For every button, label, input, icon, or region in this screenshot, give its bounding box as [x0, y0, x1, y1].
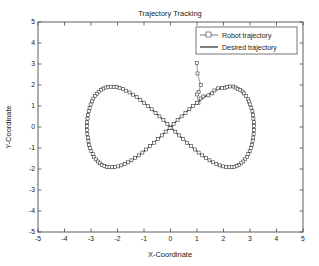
x-tick-label: 5: [301, 235, 305, 242]
robot-trajectory-marker: [211, 92, 214, 95]
robot-trajectory-marker: [120, 164, 123, 167]
robot-trajectory-marker: [118, 87, 121, 90]
y-tick-label: -5: [29, 228, 35, 235]
y-tick-label: 3: [31, 60, 35, 67]
y-tick-label: -2: [29, 165, 35, 172]
chart-legend: Robot trajectory Desired trajectory: [196, 27, 297, 54]
legend-label-robot: Robot trajectory: [222, 32, 272, 40]
robot-trajectory-marker: [150, 108, 153, 111]
robot-trajectory-marker: [137, 154, 140, 157]
robot-trajectory-marker: [149, 145, 152, 148]
robot-trajectory-marker: [117, 165, 120, 168]
robot-trajectory-marker: [86, 117, 89, 120]
robot-trajectory-marker: [182, 138, 185, 141]
trajectory-chart: Trajectory Tracking -5-4-3-2-1012345 -5-…: [0, 0, 319, 266]
robot-trajectory-marker: [207, 94, 210, 97]
robot-trajectory-marker: [145, 148, 148, 151]
robot-trajectory-marker: [184, 111, 187, 114]
robot-trajectory-marker: [248, 100, 251, 103]
y-tick-label: -3: [29, 186, 35, 193]
robot-trajectory-marker: [186, 141, 189, 144]
robot-trajectory-marker: [251, 140, 254, 143]
robot-trajectory-marker: [224, 166, 227, 169]
robot-trajectory-marker: [197, 151, 200, 154]
robot-trajectory-marker: [88, 106, 91, 109]
robot-trajectory-marker: [86, 129, 89, 132]
robot-trajectory-marker: [132, 93, 135, 96]
robot-trajectory-marker: [162, 119, 165, 122]
robot-trajectory-marker: [227, 166, 230, 169]
x-tick-label: -4: [61, 235, 67, 242]
robot-trajectory-marker: [221, 165, 224, 168]
x-tick-label: 1: [195, 235, 199, 242]
robot-trajectory-marker: [218, 164, 221, 167]
robot-trajectory-marker: [253, 125, 256, 128]
robot-trajectory-marker: [89, 147, 92, 150]
robot-trajectory-marker: [199, 84, 202, 87]
robot-trajectory-marker: [208, 159, 211, 162]
robot-trajectory-marker: [141, 151, 144, 154]
y-tick-label: -1: [29, 144, 35, 151]
robot-trajectory-marker: [196, 72, 199, 75]
y-tick-label: 1: [31, 102, 35, 109]
robot-trajectory-marker: [178, 134, 181, 137]
robot-trajectory-marker: [146, 104, 149, 107]
robot-trajectory-marker: [134, 157, 137, 160]
robot-trajectory-marker: [127, 161, 130, 164]
robot-trajectory-marker: [250, 106, 253, 109]
robot-trajectory-marker: [143, 101, 146, 104]
robot-trajectory-marker: [86, 125, 89, 128]
robot-trajectory-marker: [164, 130, 167, 133]
y-tick-label: 2: [31, 81, 35, 88]
robot-trajectory-marker: [154, 111, 157, 114]
x-tick-label: 0: [169, 235, 173, 242]
robot-trajectory-marker: [252, 132, 255, 135]
robot-trajectory-marker: [135, 96, 138, 99]
robot-trajectory-marker: [252, 136, 255, 139]
robot-trajectory-marker: [211, 161, 214, 164]
robot-trajectory-marker: [204, 157, 207, 160]
x-tick-label: 2: [222, 235, 226, 242]
robot-trajectory-marker: [226, 86, 229, 89]
robot-trajectory-marker: [115, 86, 118, 89]
x-axis-label: X-Coordinate: [148, 250, 192, 259]
robot-trajectory-marker: [252, 113, 255, 116]
robot-trajectory-marker: [86, 136, 89, 139]
robot-trajectory-marker: [248, 150, 251, 153]
robot-trajectory-marker: [201, 154, 204, 157]
robot-trajectory-marker: [87, 113, 90, 116]
robot-trajectory-marker: [190, 145, 193, 148]
robot-trajectory-marker: [220, 86, 223, 89]
robot-trajectory-marker: [123, 163, 126, 166]
robot-trajectory-marker: [152, 141, 155, 144]
robot-trajectory-marker: [176, 119, 179, 122]
robot-trajectory-marker: [249, 147, 252, 150]
robot-trajectory-marker: [196, 101, 199, 104]
robot-trajectory-marker: [87, 140, 90, 143]
robot-trajectory-marker: [130, 159, 133, 162]
y-tick-label: 5: [31, 18, 35, 25]
x-tick-label: -5: [35, 235, 41, 242]
y-axis-label: Y-Coordinate: [4, 105, 13, 149]
robot-trajectory-marker: [90, 150, 93, 153]
robot-trajectory-marker: [92, 97, 95, 100]
x-tick-label: -3: [88, 235, 94, 242]
robot-trajectory-marker: [196, 61, 199, 64]
robot-trajectory-marker: [125, 89, 128, 92]
y-tick-label: -4: [29, 207, 35, 214]
robot-trajectory-marker: [252, 117, 255, 120]
robot-trajectory-marker: [188, 108, 191, 111]
robot-trajectory-marker: [250, 143, 253, 146]
robot-trajectory-marker: [249, 103, 252, 106]
robot-trajectory-marker: [192, 104, 195, 107]
robot-trajectory-marker: [174, 130, 177, 133]
robot-trajectory-marker: [86, 121, 89, 124]
chart-title: Trajectory Tracking: [138, 9, 202, 18]
robot-trajectory-marker: [121, 88, 124, 91]
legend-label-desired: Desired trajectory: [222, 44, 277, 52]
y-tick-label: 4: [31, 39, 35, 46]
x-tick-label: -2: [114, 235, 120, 242]
robot-trajectory-marker: [158, 115, 161, 118]
robot-trajectory-marker: [114, 166, 117, 169]
robot-trajectory-marker: [193, 148, 196, 151]
